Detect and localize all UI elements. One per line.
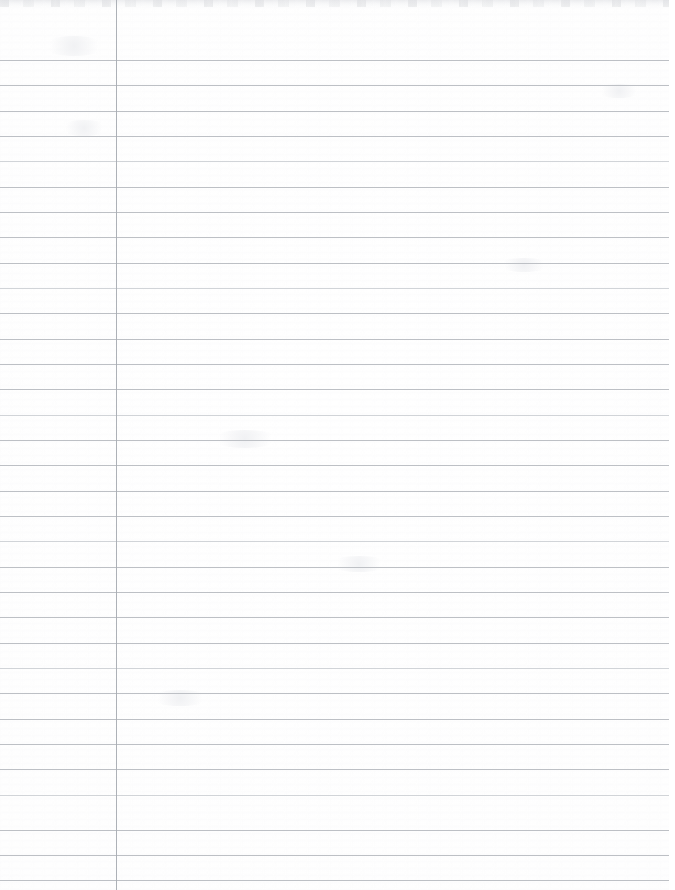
- scan-edge-artifact: [0, 0, 675, 7]
- notebook-page: [0, 0, 675, 890]
- writing-area[interactable]: [117, 60, 669, 890]
- paper-right-edge: [669, 0, 675, 890]
